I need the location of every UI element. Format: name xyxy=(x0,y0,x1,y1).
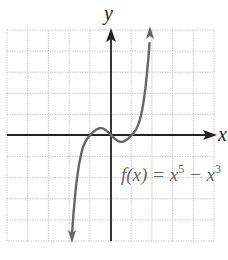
x-axis-label: x xyxy=(218,123,227,146)
function-graph xyxy=(0,0,228,260)
exponent-5: 5 xyxy=(178,162,184,176)
y-axis-label: y xyxy=(104,2,113,25)
exponent-3: 3 xyxy=(215,162,221,176)
curve-top-arrow-icon xyxy=(146,26,154,39)
function-label-prefix: f(x) = x xyxy=(121,164,178,185)
function-label-minus: − x xyxy=(184,164,215,185)
function-label: f(x) = x5 − x3 xyxy=(121,164,221,186)
